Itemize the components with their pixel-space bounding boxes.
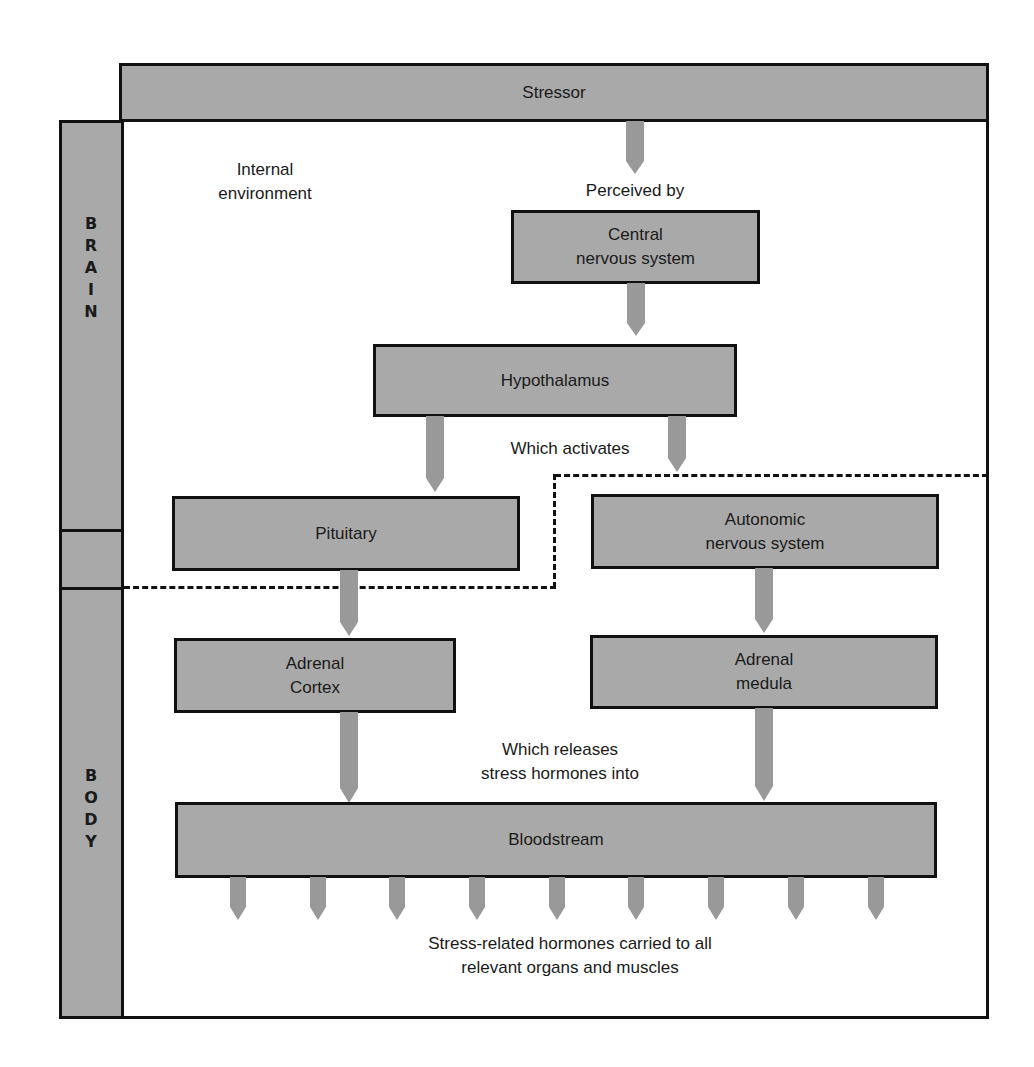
adrenal-cortex-label: Adrenal Cortex <box>286 652 345 700</box>
arrow-down-icon <box>626 121 644 174</box>
cns-label: Central nervous system <box>576 223 695 271</box>
hypothalamus-label: Hypothalamus <box>501 369 610 393</box>
arrow-down-icon <box>230 877 246 920</box>
arrow-down-icon <box>668 416 686 472</box>
brain-column: B R A I N <box>59 120 124 532</box>
pituitary-box: Pituitary <box>172 496 520 571</box>
arrow-down-icon <box>549 877 565 920</box>
brain-body-dashed-boundary <box>553 474 556 588</box>
arrow-down-icon <box>469 877 485 920</box>
arrow-down-icon <box>310 877 326 920</box>
arrow-down-icon <box>627 283 645 336</box>
arrow-down-icon <box>389 877 405 920</box>
arrow-down-icon <box>426 416 444 492</box>
autonomic-label: Autonomic nervous system <box>705 508 824 556</box>
adrenal-medula-box: Adrenal medula <box>590 635 938 709</box>
which-releases-label: Which releases stress hormones into <box>440 738 680 786</box>
brain-label: B R A I N <box>62 213 121 323</box>
arrow-down-icon <box>788 877 804 920</box>
perceived-by-label: Perceived by <box>535 179 735 203</box>
bloodstream-box: Bloodstream <box>175 802 937 878</box>
stressor-box: Stressor <box>119 63 989 122</box>
arrow-down-icon <box>755 708 773 801</box>
autonomic-nervous-system-box: Autonomic nervous system <box>591 494 939 569</box>
arrow-down-icon <box>628 877 644 920</box>
cns-box: Central nervous system <box>511 210 760 284</box>
body-label: B O D Y <box>62 765 121 853</box>
bloodstream-label: Bloodstream <box>508 828 603 852</box>
adrenal-cortex-box: Adrenal Cortex <box>174 638 456 713</box>
body-column: B O D Y <box>59 587 124 1019</box>
outcome-label: Stress-related hormones carried to all r… <box>370 932 770 980</box>
pituitary-label: Pituitary <box>315 522 376 546</box>
brain-body-dashed-boundary <box>555 474 988 477</box>
internal-environment-label: Internal environment <box>190 158 340 206</box>
stressor-label: Stressor <box>522 81 585 105</box>
adrenal-medula-label: Adrenal medula <box>735 648 794 696</box>
arrow-down-icon <box>868 877 884 920</box>
hypothalamus-box: Hypothalamus <box>373 344 737 417</box>
arrow-down-icon <box>755 568 773 633</box>
arrow-down-icon <box>340 570 358 636</box>
which-activates-label: Which activates <box>470 437 670 461</box>
arrow-down-icon <box>340 712 358 803</box>
arrow-down-icon <box>708 877 724 920</box>
brain-body-boundary-section <box>59 529 124 590</box>
